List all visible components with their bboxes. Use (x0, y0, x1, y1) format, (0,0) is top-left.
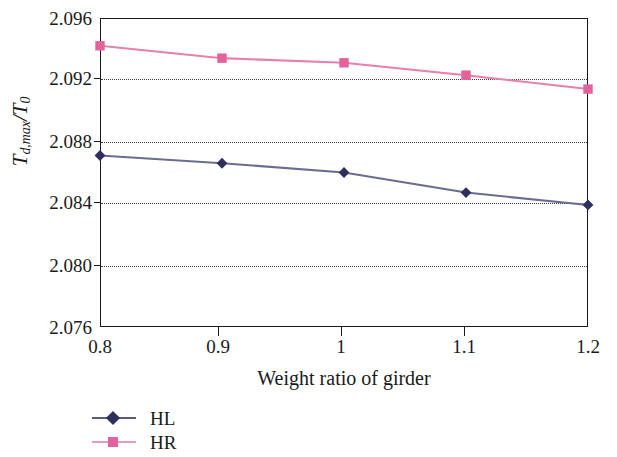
x-tick-mark-11 (464, 327, 465, 336)
y-tick-label-2096: 2.096 (0, 9, 92, 28)
x-tick-label-12: 1.2 (553, 336, 617, 358)
legend-label-hr: HR (150, 433, 176, 452)
chart-legend: HL HR (92, 406, 176, 454)
legend-item-hl[interactable]: HL (92, 406, 176, 430)
chart-figure: Td,max/T0 2.096 2.092 2.088 2.084 2.080 … (0, 0, 617, 457)
x-axis-label: Weight ratio of girder (100, 367, 588, 390)
y-tick-label-2088: 2.088 (0, 132, 92, 151)
y-tick-label-2092: 2.092 (0, 69, 92, 88)
y-tick-label-2084: 2.084 (0, 193, 92, 212)
x-tick-label-1: 1 (306, 336, 376, 358)
legend-marker-square-icon (92, 435, 136, 449)
x-tick-mark-1 (341, 327, 342, 336)
legend-item-hr[interactable]: HR (92, 430, 176, 454)
gridline-2080 (101, 266, 587, 267)
x-tick-label-11: 1.1 (429, 336, 499, 358)
gridline-2084 (101, 203, 587, 204)
plot-area (100, 18, 588, 327)
x-tick-label-09: 0.9 (183, 336, 253, 358)
y-tick-label-2080: 2.080 (0, 256, 92, 275)
gridline-2092 (101, 79, 587, 80)
y-tick-label-2076: 2.076 (0, 318, 92, 337)
x-tick-mark-09 (218, 327, 219, 336)
x-tick-label-08: 0.8 (65, 336, 135, 358)
legend-marker-diamond-icon (92, 411, 136, 425)
legend-label-hl: HL (150, 409, 175, 428)
gridline-2088 (101, 142, 587, 143)
